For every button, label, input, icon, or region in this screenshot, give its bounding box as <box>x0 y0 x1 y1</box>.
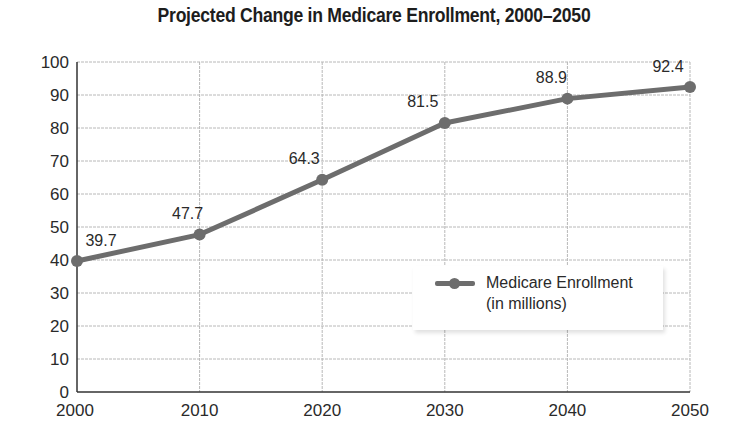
y-tick-label: 100 <box>41 53 69 72</box>
y-tick-label: 60 <box>50 185 69 204</box>
x-tick-label: 2010 <box>181 401 219 420</box>
series-medicare-enrollment <box>71 81 696 267</box>
y-tick-label: 0 <box>60 383 69 402</box>
data-point-marker <box>439 117 451 129</box>
data-label: 81.5 <box>407 93 438 110</box>
data-point-marker <box>71 255 83 267</box>
data-label: 47.7 <box>172 205 203 222</box>
x-tick-label: 2050 <box>671 401 709 420</box>
data-label: 39.7 <box>85 232 116 249</box>
data-label: 92.4 <box>652 58 683 75</box>
y-tick-label: 80 <box>50 119 69 138</box>
y-tick-label: 90 <box>50 86 69 105</box>
legend-label-line1: Medicare Enrollment <box>486 272 633 293</box>
data-point-marker <box>316 174 328 186</box>
line-chart: 0102030405060708090100 20002010202020302… <box>0 0 748 434</box>
data-label: 88.9 <box>536 69 567 86</box>
legend-label-line2: (in millions) <box>486 293 633 314</box>
data-point-marker <box>684 81 696 93</box>
y-tick-label: 70 <box>50 152 69 171</box>
legend: Medicare Enrollment (in millions) <box>413 266 663 330</box>
series-line <box>77 87 690 261</box>
y-axis-ticks: 0102030405060708090100 <box>41 53 69 402</box>
x-axis-ticks: 200020102020203020402050 <box>56 401 709 420</box>
legend-label: Medicare Enrollment (in millions) <box>486 272 633 314</box>
data-point-marker <box>561 93 573 105</box>
y-tick-label: 40 <box>50 251 69 270</box>
gridlines <box>77 62 690 392</box>
data-label: 64.3 <box>289 150 320 167</box>
data-point-marker <box>194 229 206 241</box>
legend-dot-marker-icon <box>449 278 460 289</box>
y-tick-label: 30 <box>50 284 69 303</box>
x-tick-label: 2040 <box>548 401 586 420</box>
x-tick-label: 2030 <box>426 401 464 420</box>
y-tick-label: 20 <box>50 317 69 336</box>
y-tick-label: 50 <box>50 218 69 237</box>
y-tick-label: 10 <box>50 350 69 369</box>
x-tick-label: 2020 <box>303 401 341 420</box>
x-tick-label: 2000 <box>56 401 94 420</box>
